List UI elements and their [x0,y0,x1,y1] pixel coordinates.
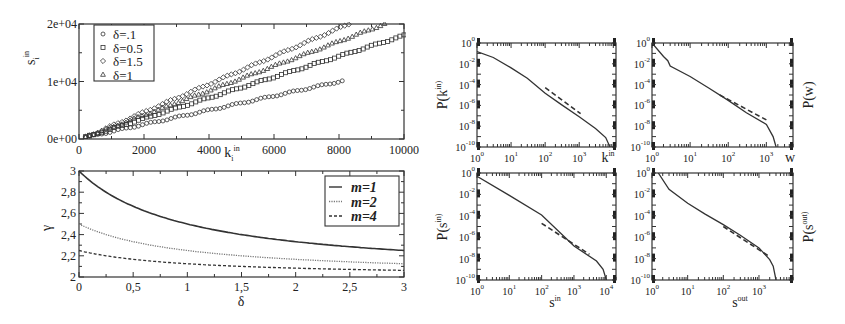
x-tick-label: 100 [645,283,660,297]
y-tick-label: 10-6 [459,229,476,243]
y-tick-label: 0e+00 [47,132,77,146]
data-line [477,52,610,147]
x-tick-label: 103 [567,283,582,297]
series-line [79,224,404,264]
svg-text:P(w): P(w) [801,81,817,109]
y-tick-label: 10-8 [459,118,476,132]
x-tick-label: 103 [752,283,767,297]
y-tick-label: 2e+04 [47,17,77,31]
svg-text:P(sout): P(sout) [800,211,817,242]
y-tick-label: 100 [461,35,476,49]
x-tick-label: 0 [76,280,82,294]
x-tick-label: 102 [716,283,731,297]
y-axis-label: siin [22,51,41,65]
x-tick-label: 100 [470,150,485,164]
svg-text:P(kin): P(kin) [434,80,451,109]
P-w-chart: 10010110210310-1010-810-610-410-2100wP(w… [630,35,817,165]
y-tick-label: 100 [461,165,476,179]
y-tick-label: 10-10 [630,272,650,286]
y-tick-label: 2,8 [61,185,76,199]
y-axis-label: γ [39,225,54,232]
data-line [477,176,606,280]
y-tick-label: 10-6 [459,97,476,111]
y-tick-label: 2 [70,270,76,284]
x-tick-label: 4000 [197,143,221,157]
legend-item-label: m=2 [351,195,377,210]
data-line [658,173,776,280]
y-tick-label: 10-8 [459,251,476,265]
x-tick-label: 102 [535,283,550,297]
gamma-vs-delta-chart: 00,511,522,5322,22,42,62,83δγm=1m=2m=4 [39,164,407,309]
y-tick-label: 2,2 [61,249,76,263]
P-s-out-chart: 10010110210310-1010-810-610-410-2100sout… [630,165,817,310]
y-tick-label: 10-4 [459,77,476,91]
x-tick-label: 100 [470,283,485,297]
y-tick-label: 10-6 [634,97,651,111]
y-tick-label: 10-8 [634,251,651,265]
y-tick-label: 10-8 [634,118,651,132]
y-tick-label: 3 [70,164,76,178]
plot-frame [652,43,793,147]
x-tick-label: 2 [293,280,299,294]
x-tick-label: 10000 [389,143,419,157]
y-tick-label: 10-4 [634,77,651,91]
x-tick-label: 2,5 [342,280,357,294]
legend: m=1m=2m=4 [325,176,399,226]
y-tick-label: 1e+04 [47,75,77,89]
y-tick-label: 10-2 [634,56,651,70]
x-axis-label: δ [238,294,245,309]
legend-item-label: m=1 [351,180,377,195]
x-tick-label: 102 [538,150,553,164]
x-axis-label: sout [732,294,748,310]
x-tick-label: 0,5 [126,280,141,294]
x-axis-label: kin [601,149,614,165]
x-tick-label: 101 [504,150,518,164]
P-s-in-chart: 10010110210310410-1010-810-610-410-2100s… [434,165,616,310]
y-tick-label: 10-4 [459,208,476,222]
x-axis-label: sin [549,294,561,310]
y-axis-label: P(kin) [434,80,451,109]
fit-line [542,223,590,254]
y-tick-label: 10-10 [630,139,650,153]
figure-canvas: 02000400060008000100000e+001e+042e+04kii… [0,0,845,324]
x-axis-label: w [785,150,796,165]
y-axis-label: P(sin) [434,213,451,240]
x-tick-label: 104 [599,283,614,297]
x-axis-label: kiin [224,144,239,163]
x-tick-label: 101 [681,283,696,297]
x-tick-label: 103 [572,150,587,164]
y-tick-label: 10-2 [459,56,476,70]
x-tick-label: 100 [645,150,660,164]
y-tick-label: 10-6 [634,229,651,243]
strength-vs-degree-chart: 02000400060008000100000e+001e+042e+04kii… [22,17,419,163]
figure: 02000400060008000100000e+001e+042e+04kii… [0,0,845,324]
x-tick-label: 2000 [132,143,156,157]
x-tick-label: 1 [184,280,190,294]
x-tick-label: 3 [401,280,407,294]
series-line [79,251,404,271]
fit-line [545,88,580,114]
x-tick-label: 1,5 [234,280,249,294]
P-k-in-chart: 10010110210310-1010-810-610-410-2100kinP… [434,35,616,165]
x-tick-label: 101 [502,283,517,297]
x-tick-label: 101 [683,150,698,164]
legend-item-label: m=4 [351,209,377,224]
x-tick-label: 103 [759,150,774,164]
plot-frame [477,43,616,147]
y-tick-label: 100 [636,165,651,179]
y-tick-label: 2,6 [61,206,76,220]
y-tick-label: 10-4 [634,208,651,222]
y-tick-label: 2,4 [61,228,76,242]
x-tick-label: 102 [721,150,736,164]
svg-text:P(sin): P(sin) [434,213,451,240]
y-tick-label: 100 [636,35,651,49]
svg-text:siin: siin [22,51,41,65]
legend: δ=.1δ=0.5δ=1.5δ=1 [94,25,154,83]
y-tick-label: 10-10 [455,139,475,153]
y-axis-label: P(sout) [800,211,817,242]
x-tick-label: 6000 [262,143,286,157]
y-tick-label: 10-2 [459,186,476,200]
y-tick-label: 10-10 [455,272,475,286]
y-axis-label: P(w) [801,81,817,109]
data-line [652,43,776,147]
